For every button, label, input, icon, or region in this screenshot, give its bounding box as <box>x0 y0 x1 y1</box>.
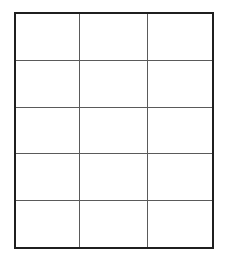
page-canvas <box>0 0 227 265</box>
blank-grid-table[interactable] <box>14 12 214 249</box>
table-row[interactable] <box>16 61 212 108</box>
table-cell[interactable] <box>16 108 80 154</box>
table-cell[interactable] <box>16 61 80 107</box>
table-row[interactable] <box>16 108 212 155</box>
table-cell[interactable] <box>148 61 212 107</box>
table-cell[interactable] <box>148 154 212 200</box>
table-cell[interactable] <box>148 14 212 60</box>
table-cell[interactable] <box>80 61 148 107</box>
table-cell[interactable] <box>80 14 148 60</box>
table-cell[interactable] <box>16 201 80 247</box>
table-cell[interactable] <box>148 201 212 247</box>
table-cell[interactable] <box>80 108 148 154</box>
table-row[interactable] <box>16 14 212 61</box>
table-cell[interactable] <box>80 154 148 200</box>
table-cell[interactable] <box>148 108 212 154</box>
table-row[interactable] <box>16 201 212 247</box>
table-cell[interactable] <box>16 154 80 200</box>
table-cell[interactable] <box>16 14 80 60</box>
table-row[interactable] <box>16 154 212 201</box>
table-cell[interactable] <box>80 201 148 247</box>
